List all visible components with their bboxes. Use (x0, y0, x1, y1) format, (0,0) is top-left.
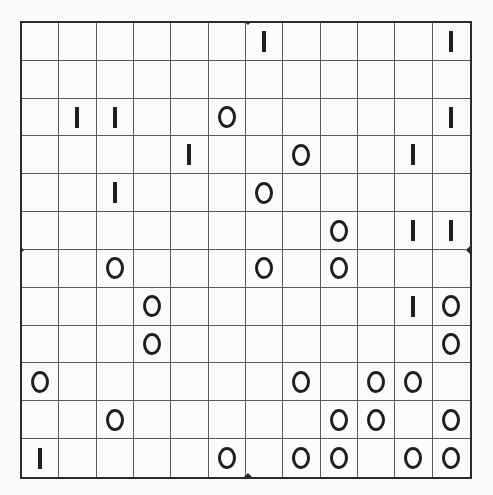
grid-cell-r2-c9[interactable] (358, 99, 395, 137)
grid-cell-r9-c3[interactable] (134, 363, 171, 401)
grid-cell-r3-c9[interactable] (358, 136, 395, 174)
grid-cell-r2-c2[interactable] (97, 99, 134, 137)
grid-cell-r8-c0[interactable] (22, 326, 59, 364)
grid-cell-r5-c11[interactable] (433, 212, 470, 250)
grid-cell-r9-c10[interactable] (395, 363, 432, 401)
grid-cell-r1-c3[interactable] (134, 61, 171, 99)
grid-cell-r8-c1[interactable] (59, 326, 96, 364)
grid-cell-r9-c5[interactable] (209, 363, 246, 401)
grid-cell-r10-c11[interactable] (433, 401, 470, 439)
grid-cell-r7-c10[interactable] (395, 288, 432, 326)
grid-cell-r11-c7[interactable] (283, 439, 320, 477)
grid-cell-r8-c4[interactable] (171, 326, 208, 364)
grid-cell-r0-c0[interactable] (22, 23, 59, 61)
grid-cell-r8-c7[interactable] (283, 326, 320, 364)
grid-cell-r11-c8[interactable] (321, 439, 358, 477)
grid-cell-r3-c8[interactable] (321, 136, 358, 174)
grid-cell-r5-c8[interactable] (321, 212, 358, 250)
grid-cell-r5-c10[interactable] (395, 212, 432, 250)
grid-cell-r2-c11[interactable] (433, 99, 470, 137)
grid-cell-r2-c8[interactable] (321, 99, 358, 137)
grid-cell-r9-c4[interactable] (171, 363, 208, 401)
grid-cell-r3-c2[interactable] (97, 136, 134, 174)
grid-cell-r5-c5[interactable] (209, 212, 246, 250)
grid-cell-r1-c6[interactable] (246, 61, 283, 99)
grid-cell-r0-c1[interactable] (59, 23, 96, 61)
grid-cell-r4-c9[interactable] (358, 174, 395, 212)
grid-cell-r5-c4[interactable] (171, 212, 208, 250)
grid-cell-r4-c1[interactable] (59, 174, 96, 212)
grid-cell-r10-c4[interactable] (171, 401, 208, 439)
grid-cell-r3-c5[interactable] (209, 136, 246, 174)
grid-cell-r0-c6[interactable] (246, 23, 283, 61)
grid-cell-r5-c2[interactable] (97, 212, 134, 250)
grid-cell-r6-c3[interactable] (134, 250, 171, 288)
grid-cell-r7-c3[interactable] (134, 288, 171, 326)
grid-cell-r3-c7[interactable] (283, 136, 320, 174)
grid-cell-r4-c3[interactable] (134, 174, 171, 212)
grid-cell-r4-c8[interactable] (321, 174, 358, 212)
grid-cell-r4-c4[interactable] (171, 174, 208, 212)
grid-cell-r6-c11[interactable] (433, 250, 470, 288)
grid-cell-r2-c0[interactable] (22, 99, 59, 137)
grid-cell-r9-c9[interactable] (358, 363, 395, 401)
grid-cell-r1-c9[interactable] (358, 61, 395, 99)
grid-cell-r6-c10[interactable] (395, 250, 432, 288)
grid-cell-r1-c8[interactable] (321, 61, 358, 99)
grid-cell-r11-c6[interactable] (246, 439, 283, 477)
grid-cell-r8-c8[interactable] (321, 326, 358, 364)
grid-cell-r6-c4[interactable] (171, 250, 208, 288)
grid-cell-r4-c0[interactable] (22, 174, 59, 212)
grid-cell-r10-c2[interactable] (97, 401, 134, 439)
grid-cell-r3-c10[interactable] (395, 136, 432, 174)
grid-cell-r6-c6[interactable] (246, 250, 283, 288)
grid-cell-r6-c5[interactable] (209, 250, 246, 288)
grid-cell-r10-c1[interactable] (59, 401, 96, 439)
grid-cell-r11-c1[interactable] (59, 439, 96, 477)
grid-cell-r8-c10[interactable] (395, 326, 432, 364)
grid-cell-r0-c11[interactable] (433, 23, 470, 61)
grid-cell-r1-c11[interactable] (433, 61, 470, 99)
grid-cell-r10-c5[interactable] (209, 401, 246, 439)
grid-cell-r7-c11[interactable] (433, 288, 470, 326)
grid-cell-r10-c0[interactable] (22, 401, 59, 439)
grid-cell-r1-c7[interactable] (283, 61, 320, 99)
grid-cell-r3-c0[interactable] (22, 136, 59, 174)
grid-cell-r0-c9[interactable] (358, 23, 395, 61)
grid-cell-r2-c6[interactable] (246, 99, 283, 137)
grid-cell-r0-c5[interactable] (209, 23, 246, 61)
grid-cell-r9-c1[interactable] (59, 363, 96, 401)
grid-cell-r3-c3[interactable] (134, 136, 171, 174)
grid-cell-r6-c0[interactable] (22, 250, 59, 288)
grid-cell-r7-c1[interactable] (59, 288, 96, 326)
grid-cell-r6-c9[interactable] (358, 250, 395, 288)
grid-cell-r2-c5[interactable] (209, 99, 246, 137)
grid-cell-r0-c3[interactable] (134, 23, 171, 61)
grid-cell-r11-c0[interactable] (22, 439, 59, 477)
grid-cell-r0-c10[interactable] (395, 23, 432, 61)
grid-cell-r8-c11[interactable] (433, 326, 470, 364)
grid-cell-r8-c6[interactable] (246, 326, 283, 364)
grid-cell-r5-c0[interactable] (22, 212, 59, 250)
grid-cell-r1-c4[interactable] (171, 61, 208, 99)
grid-cell-r11-c10[interactable] (395, 439, 432, 477)
grid-cell-r6-c7[interactable] (283, 250, 320, 288)
grid-cell-r4-c6[interactable] (246, 174, 283, 212)
grid-cell-r10-c8[interactable] (321, 401, 358, 439)
grid-cell-r8-c9[interactable] (358, 326, 395, 364)
grid-cell-r1-c0[interactable] (22, 61, 59, 99)
grid-cell-r8-c3[interactable] (134, 326, 171, 364)
grid-cell-r8-c5[interactable] (209, 326, 246, 364)
grid-cell-r1-c1[interactable] (59, 61, 96, 99)
grid-cell-r7-c9[interactable] (358, 288, 395, 326)
grid-cell-r10-c7[interactable] (283, 401, 320, 439)
grid-cell-r5-c6[interactable] (246, 212, 283, 250)
grid-cell-r5-c3[interactable] (134, 212, 171, 250)
grid-cell-r2-c7[interactable] (283, 99, 320, 137)
grid-cell-r4-c5[interactable] (209, 174, 246, 212)
grid-cell-r0-c4[interactable] (171, 23, 208, 61)
grid-cell-r9-c8[interactable] (321, 363, 358, 401)
grid-cell-r5-c1[interactable] (59, 212, 96, 250)
grid-cell-r5-c7[interactable] (283, 212, 320, 250)
grid-cell-r8-c2[interactable] (97, 326, 134, 364)
